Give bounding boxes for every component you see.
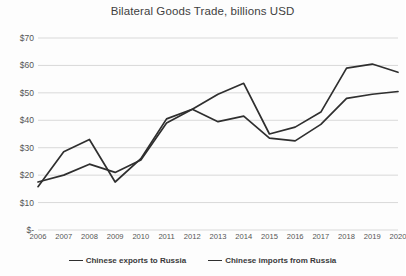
- x-axis-tick-label: 2009: [107, 232, 124, 241]
- y-axis-tick-label: $30: [0, 143, 34, 153]
- x-axis-tick-label: 2017: [312, 232, 329, 241]
- x-axis-tick-label: 2010: [132, 232, 149, 241]
- y-axis-tick-label: $60: [0, 60, 34, 70]
- y-axis-tick-label: $20: [0, 170, 34, 180]
- x-axis-tick-label: 2006: [30, 232, 47, 241]
- series-line-1: [38, 91, 398, 182]
- x-axis-tick-label: 2012: [184, 232, 201, 241]
- chart-legend: Chinese exports to RussiaChinese imports…: [0, 256, 405, 265]
- x-axis-tick-label: 2007: [55, 232, 72, 241]
- chart-title: Bilateral Goods Trade, billions USD: [0, 5, 405, 17]
- legend-label: Chinese imports from Russia: [225, 256, 336, 265]
- legend-label: Chinese exports to Russia: [86, 256, 186, 265]
- y-axis-tick-label: $10: [0, 198, 34, 208]
- y-axis-tick-label: $50: [0, 88, 34, 98]
- y-axis-tick-label: $40: [0, 115, 34, 125]
- legend-item-0[interactable]: Chinese exports to Russia: [69, 256, 186, 265]
- x-axis-tick-label: 2018: [338, 232, 355, 241]
- x-axis-tick-label: 2015: [261, 232, 278, 241]
- x-axis-tick-label: 2014: [235, 232, 252, 241]
- y-axis-tick-label: $70: [0, 33, 34, 43]
- x-axis-tick-label: 2008: [81, 232, 98, 241]
- plot-area: [38, 38, 398, 230]
- x-axis-tick-label: 2013: [210, 232, 227, 241]
- x-axis-tick-label: 2011: [158, 232, 174, 241]
- legend-line-icon: [69, 260, 83, 261]
- x-axis-tick-label: 2020: [390, 232, 406, 241]
- legend-item-1[interactable]: Chinese imports from Russia: [208, 256, 336, 265]
- series-line-0: [38, 64, 398, 187]
- x-axis-tick-label: 2019: [364, 232, 381, 241]
- series-lines: [38, 38, 398, 230]
- x-axis-tick-label: 2016: [287, 232, 304, 241]
- y-axis: $-$10$20$30$40$50$60$70: [0, 38, 34, 230]
- x-axis: 2006200720082009201020112012201320142015…: [38, 232, 398, 246]
- legend-line-icon: [208, 260, 222, 261]
